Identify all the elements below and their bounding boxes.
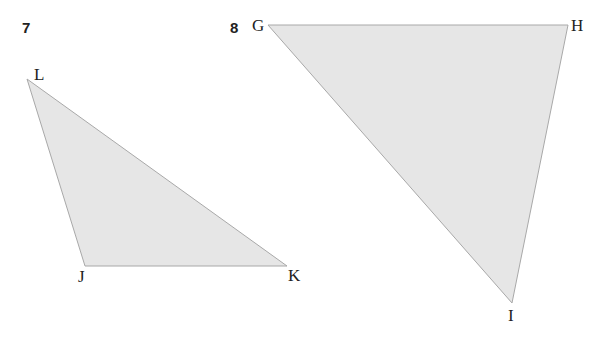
- figure-canvas: [0, 0, 611, 343]
- vertex-label-g: G: [252, 16, 264, 36]
- vertex-label-j: J: [78, 267, 85, 287]
- vertex-label-i: I: [508, 306, 514, 326]
- triangle-ljk: [27, 79, 287, 266]
- vertex-label-l: L: [34, 65, 44, 85]
- problem-number-8: 8: [230, 19, 238, 36]
- vertex-label-k: K: [288, 266, 300, 286]
- triangle-ghi: [268, 25, 568, 303]
- problem-number-7: 7: [22, 19, 30, 36]
- vertex-label-h: H: [571, 16, 583, 36]
